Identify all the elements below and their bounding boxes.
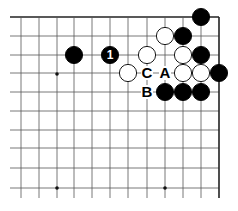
point-label-a: A <box>160 64 171 81</box>
star-point-icon <box>163 186 167 190</box>
point-label-b: B <box>142 83 153 100</box>
move-number: 1 <box>107 48 114 62</box>
black-stone <box>174 83 191 100</box>
white-stone <box>119 64 136 81</box>
black-stone <box>174 27 191 44</box>
go-board: 1 CAB <box>0 0 238 211</box>
white-stone <box>192 64 209 81</box>
white-stone <box>138 46 155 63</box>
black-stone: 1 <box>101 46 118 63</box>
black-stone <box>65 46 82 63</box>
star-point-icon <box>55 186 59 190</box>
board-grid <box>10 17 219 198</box>
star-point-icon <box>55 72 59 76</box>
black-stone <box>192 83 209 100</box>
point-label-c: C <box>142 64 153 81</box>
black-stone <box>192 46 209 63</box>
black-stone <box>156 83 173 100</box>
white-stone <box>174 64 191 81</box>
white-stone <box>156 27 173 44</box>
black-stone <box>192 8 209 25</box>
white-stone <box>174 46 191 63</box>
black-stone <box>210 64 227 81</box>
